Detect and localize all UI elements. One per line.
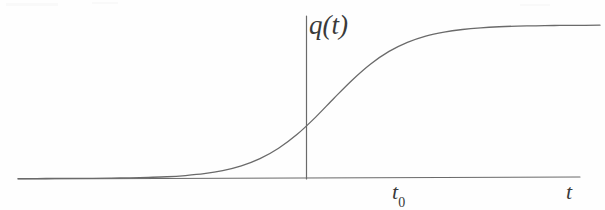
x-axis-label: t xyxy=(566,181,572,203)
figure-canvas: q(t) t0 t xyxy=(0,0,605,210)
tick-subscript: 0 xyxy=(398,195,405,210)
plot-svg xyxy=(0,0,605,210)
y-axis-label: q(t) xyxy=(309,12,348,39)
sigmoid-curve xyxy=(18,25,600,178)
x-tick-label-t0: t0 xyxy=(392,181,405,207)
